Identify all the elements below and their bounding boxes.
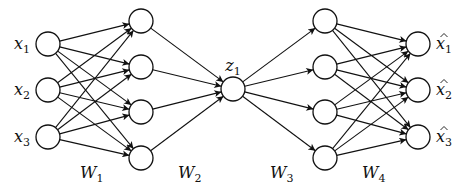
input-label-2: x2	[14, 80, 30, 102]
output-node-3	[406, 125, 430, 149]
edge-hidden1-4-to-code-1	[151, 96, 224, 151]
code-node-1	[221, 77, 245, 101]
autoencoder-diagram: x1x2x3z1x1x2x3W1W2W3W4	[0, 0, 465, 190]
edge-input-2-to-hidden1-1	[58, 28, 132, 83]
hidden3-node-3	[313, 100, 337, 124]
hidden3-node-1	[313, 9, 337, 33]
edge-hidden1-1-to-code-1	[151, 28, 224, 82]
hidden1-node-4	[129, 146, 153, 170]
labels-group: x1x2x3z1x1x2x3W1W2W3W4	[14, 34, 452, 186]
output-label-2: x2	[436, 80, 452, 102]
nodes-group	[36, 9, 430, 170]
output-node-2	[406, 78, 430, 102]
edge-hidden3-2-to-output-1	[337, 47, 407, 64]
edge-code-1-to-hidden3-1	[243, 28, 316, 82]
hidden3-node-2	[313, 55, 337, 79]
hidden1-node-3	[129, 100, 153, 124]
input-label-1: x1	[14, 34, 30, 56]
weight-label-2: W2	[178, 163, 201, 185]
edge-code-1-to-hidden3-4	[243, 96, 316, 151]
output-label-1: x1	[436, 34, 452, 56]
hidden1-node-2	[129, 55, 153, 79]
edge-hidden3-3-to-output-1	[335, 51, 409, 105]
edge-input-3-to-hidden1-1	[56, 30, 134, 127]
output-node-1	[406, 32, 430, 56]
weight-label-4: W4	[362, 163, 385, 185]
code-label-1: z1	[224, 56, 240, 78]
hidden1-node-1	[129, 9, 153, 33]
input-node-1	[36, 32, 60, 56]
edge-input-1-to-hidden1-1	[60, 24, 130, 41]
edge-hidden3-4-to-output-1	[333, 53, 411, 148]
network-svg: x1x2x3z1x1x2x3W1W2W3W4	[0, 0, 465, 190]
edge-hidden3-4-to-output-2	[335, 97, 409, 151]
hidden3-node-4	[313, 146, 337, 170]
edge-code-1-to-hidden3-3	[245, 92, 314, 109]
input-node-2	[36, 78, 60, 102]
edge-hidden3-2-to-output-3	[335, 74, 409, 130]
edge-hidden3-1-to-output-1	[337, 24, 407, 41]
input-node-3	[36, 125, 60, 149]
weight-label-3: W3	[270, 163, 293, 185]
output-label-3: x3	[436, 127, 452, 149]
edge-hidden1-3-to-code-1	[153, 92, 222, 109]
input-label-3: x3	[14, 127, 30, 149]
edge-input-3-to-hidden1-2	[58, 74, 132, 130]
weight-label-1: W1	[80, 163, 103, 185]
